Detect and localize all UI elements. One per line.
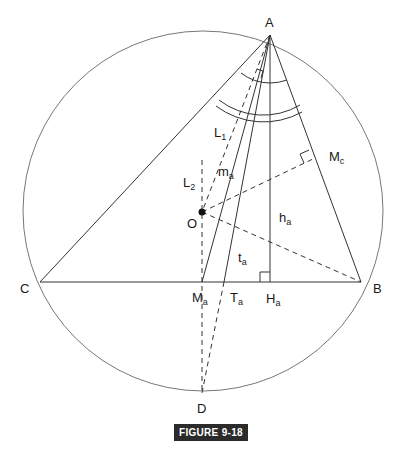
label-c: C [20, 282, 29, 295]
label-o: O [187, 217, 197, 230]
label-d: D [197, 402, 206, 415]
label-ta-point: Ta [230, 291, 243, 307]
label-b: B [373, 282, 382, 295]
label-l2: L2 [183, 176, 195, 192]
label-ha-point: Ha [266, 292, 280, 308]
right-angle-ha [260, 272, 270, 282]
figure-caption: FIGURE 9-18 [174, 424, 248, 441]
angle-arc-outer-1 [219, 100, 300, 115]
label-bisector-ta: ta [238, 251, 247, 267]
line-L1 [202, 35, 270, 212]
angle-arc-inner-1 [241, 73, 270, 83]
geometry-diagram [0, 0, 403, 458]
label-median-ma: ma [218, 165, 234, 181]
label-l1: L1 [214, 126, 226, 142]
label-altitude-ha: ha [279, 211, 291, 227]
label-mc: Mc [329, 150, 344, 166]
angle-arc-inner-2 [270, 80, 287, 83]
label-a: A [265, 16, 274, 29]
label-ma: Ma [192, 291, 208, 307]
angle-arc-outer-2 [216, 106, 302, 122]
center-point-o [199, 209, 206, 216]
